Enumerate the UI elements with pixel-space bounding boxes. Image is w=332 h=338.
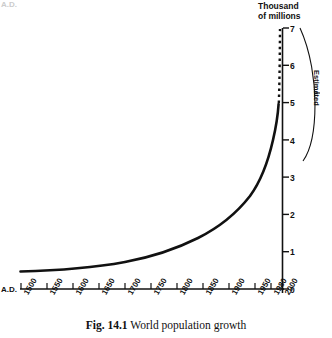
y-tick-label-4: 4 — [290, 136, 295, 146]
figure-caption-text: World population growth — [130, 319, 246, 331]
y-tick-label-2: 2 — [290, 210, 295, 220]
y-tick-label-3: 3 — [290, 173, 295, 183]
y-tick-label-1: 1 — [290, 247, 295, 257]
y-axis-ticks — [283, 28, 289, 289]
population-curve-projected — [279, 29, 280, 103]
x-axis-origin-label: A.D. — [1, 285, 17, 294]
y-tick-label-6: 6 — [290, 61, 295, 71]
figure-world-population-growth: A.D. Thousand of millions — [0, 0, 332, 338]
y-tick-label-5: 5 — [290, 98, 295, 108]
population-curve-observed — [21, 104, 279, 272]
y-tick-label-7: 7 — [290, 24, 295, 34]
figure-caption: Fig. 14.1 World population growth — [0, 319, 332, 331]
estimated-bracket-label: Estimated — [312, 70, 321, 106]
figure-caption-number: Fig. 14.1 — [86, 319, 128, 331]
